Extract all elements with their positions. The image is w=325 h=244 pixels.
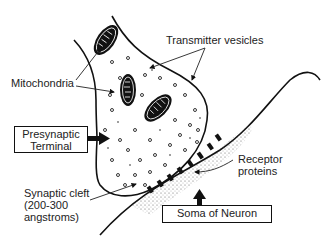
box-presynaptic-terminal: Presynaptic Terminal	[14, 126, 88, 153]
receptor-line2: proteins	[238, 165, 283, 177]
label-mitochondria: Mitochondria	[11, 77, 74, 89]
receptor-line1: Receptor	[238, 153, 283, 165]
synaptic-cleft-line2: (200-300	[24, 199, 89, 211]
label-receptor-proteins: Receptor proteins	[238, 153, 283, 177]
synaptic-cleft-line1: Synaptic cleft	[24, 187, 89, 199]
postsynaptic-density	[130, 125, 252, 215]
presynaptic-arrow	[88, 132, 110, 145]
presynaptic-line1: Presynaptic	[15, 128, 87, 140]
presynaptic-line2: Terminal	[15, 140, 87, 152]
box-soma-of-neuron: Soma of Neuron	[162, 205, 272, 223]
label-transmitter-vesicles: Transmitter vesicles	[166, 34, 263, 46]
mitochondrion-3	[140, 90, 177, 127]
axon-membrane-left	[74, 40, 97, 140]
mitochondrion-2	[120, 74, 136, 106]
synaptic-cleft-line3: angstroms)	[24, 211, 89, 223]
leader-lines	[76, 48, 233, 200]
label-synaptic-cleft: Synaptic cleft (200-300 angstroms)	[24, 187, 89, 223]
